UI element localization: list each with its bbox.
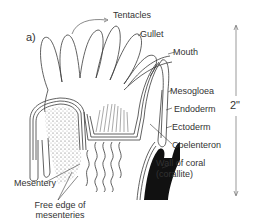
label-mesentery: Mesentery bbox=[14, 178, 56, 188]
scale-label: 2" bbox=[230, 100, 240, 110]
label-wall-line2: (corallite) bbox=[156, 169, 193, 179]
label-coelenteron: Coelenteron bbox=[172, 140, 221, 150]
label-gullet: Gullet bbox=[140, 29, 164, 39]
panel-letter: a) bbox=[26, 32, 36, 42]
label-ectoderm: Ectoderm bbox=[172, 122, 211, 132]
mesentery-region bbox=[45, 107, 81, 184]
label-mesogloea: Mesogloea bbox=[170, 86, 214, 96]
label-wall-line1: Wall of coral bbox=[156, 158, 205, 168]
label-mouth: Mouth bbox=[173, 47, 198, 57]
label-free-edge-line1: Free edge of bbox=[34, 200, 86, 210]
coral-polyp-diagram: a) Tentacles Gullet Mouth Mesogloea Endo… bbox=[0, 0, 256, 221]
label-free-edge-line2: mesenteries bbox=[34, 210, 86, 220]
label-endoderm: Endoderm bbox=[174, 104, 216, 114]
label-tentacles: Tentacles bbox=[113, 10, 151, 20]
